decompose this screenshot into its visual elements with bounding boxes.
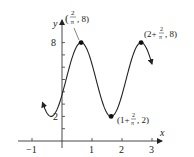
svg-text:, 8): , 8) (77, 14, 89, 24)
svg-text:2: 2 (160, 26, 163, 32)
annotation-min: (1+ 2 π , 2) (117, 112, 149, 126)
x-axis-label: x (159, 127, 165, 138)
x-tick-label: 3 (149, 144, 154, 155)
svg-text:(2+: (2+ (144, 29, 157, 39)
max-point-1 (79, 40, 84, 45)
y-tick-label: 8 (51, 37, 56, 48)
svg-text:π: π (71, 18, 75, 26)
x-tick-label: 1 (89, 144, 94, 155)
sine-graph: x y −1 1 2 3 8 2 ( 2 π , 8) (1+ 2 (0, 0, 194, 157)
svg-text:π: π (159, 34, 162, 40)
annotation-max-1: ( 2 π , 8) (65, 9, 89, 26)
svg-text:, 2): , 2) (137, 115, 149, 125)
svg-text:2: 2 (71, 9, 75, 17)
svg-text:(: ( (65, 12, 69, 25)
annotation-max-2: (2+ 2 π , 8) (144, 26, 177, 40)
min-point (109, 114, 114, 119)
svg-text:(1+: (1+ (117, 115, 130, 125)
svg-text:π: π (131, 120, 134, 126)
y-axis-label: y (52, 18, 58, 29)
sine-curve (43, 43, 152, 117)
max-point-2 (139, 40, 144, 45)
svg-text:, 8): , 8) (165, 29, 177, 39)
x-tick-label: 2 (119, 144, 124, 155)
annotation-leader (74, 28, 79, 40)
x-tick-label: −1 (26, 144, 37, 155)
curve-start-arrow (43, 102, 45, 108)
svg-text:2: 2 (132, 112, 135, 118)
